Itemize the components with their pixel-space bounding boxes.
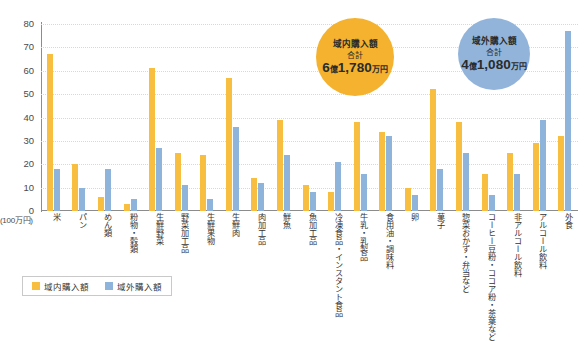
bar-group bbox=[558, 24, 572, 211]
bar-inner[interactable] bbox=[72, 164, 78, 211]
bar-group bbox=[303, 24, 317, 211]
bar-outer[interactable] bbox=[207, 199, 213, 211]
bar-inner[interactable] bbox=[456, 122, 462, 211]
bar-outer[interactable] bbox=[514, 174, 520, 211]
callout-inner-title: 域内購入額 bbox=[333, 39, 378, 50]
callout-inner-amount: 6億1,780万円 bbox=[322, 61, 387, 76]
y-axis-unit-label: (100万円) bbox=[0, 214, 42, 225]
bar-outer[interactable] bbox=[335, 162, 341, 211]
x-tick-label: めん類 bbox=[98, 213, 111, 237]
y-tick-label-70: 70 bbox=[0, 42, 34, 52]
callout-outer-oku-unit: 億 bbox=[469, 62, 477, 71]
chart-legend: 域内購入額 域外購入額 bbox=[22, 276, 172, 296]
bar-inner[interactable] bbox=[354, 122, 360, 211]
x-tick-label: 食用油・調味料 bbox=[380, 213, 393, 269]
x-tick-label: 野菜加工品 bbox=[175, 213, 188, 253]
x-tick-label: アルコール飲料 bbox=[533, 213, 546, 269]
bar-group bbox=[430, 24, 444, 211]
x-axis-tick-labels: 米パンめん類粉物・穀類生鮮野菜野菜加工品生鮮果物生鮮肉肉加工品鮮魚魚加工品冷凍食… bbox=[41, 213, 578, 275]
callout-bubble-inner-total: 域内購入額 合計 6億1,780万円 bbox=[316, 18, 394, 96]
bar-inner[interactable] bbox=[328, 192, 334, 211]
x-tick-label: 外食 bbox=[559, 213, 572, 229]
bar-group bbox=[533, 24, 547, 211]
bar-outer[interactable] bbox=[463, 153, 469, 211]
bar-group bbox=[200, 24, 214, 211]
bar-inner[interactable] bbox=[507, 153, 513, 211]
x-tick-label: 生鮮果物 bbox=[201, 213, 214, 245]
legend-label-outer: 域外購入額 bbox=[117, 280, 162, 292]
bar-outer[interactable] bbox=[233, 127, 239, 211]
x-tick-label: 惣菜おかず・弁当など bbox=[456, 213, 469, 293]
bar-inner[interactable] bbox=[558, 136, 564, 211]
y-tick-label-30: 30 bbox=[0, 136, 34, 146]
bar-inner[interactable] bbox=[251, 178, 257, 211]
x-tick-label: 牛乳・乳製品 bbox=[354, 213, 367, 261]
bar-group bbox=[226, 24, 240, 211]
bar-inner[interactable] bbox=[379, 132, 385, 211]
x-tick-label: 冷凍食品・インスタント食品 bbox=[329, 213, 342, 317]
bar-group bbox=[124, 24, 138, 211]
x-tick-label: 肉加工品 bbox=[252, 213, 265, 245]
x-tick-label: 生鮮野菜 bbox=[150, 213, 163, 245]
x-tick-label: 生鮮肉 bbox=[226, 213, 239, 237]
callout-inner-man-unit: 万円 bbox=[372, 65, 388, 74]
x-tick-label: パン bbox=[73, 213, 86, 229]
bar-outer[interactable] bbox=[258, 183, 264, 211]
y-tick-label-80: 80 bbox=[0, 19, 34, 29]
x-tick-label: 魚加工品 bbox=[303, 213, 316, 245]
y-axis-tick-labels: 01020304050607080 bbox=[0, 0, 38, 212]
bar-group bbox=[277, 24, 291, 211]
x-tick-label: 菓子 bbox=[431, 213, 444, 229]
bar-outer[interactable] bbox=[540, 120, 546, 211]
bar-outer[interactable] bbox=[489, 195, 495, 211]
bar-outer[interactable] bbox=[54, 169, 60, 211]
bar-inner[interactable] bbox=[405, 188, 411, 211]
x-tick-label: コーヒー豆粉・ココア粉・茶葉など bbox=[482, 213, 495, 341]
bar-outer[interactable] bbox=[284, 155, 290, 211]
bar-group bbox=[98, 24, 112, 211]
bar-inner[interactable] bbox=[98, 197, 104, 211]
bar-outer[interactable] bbox=[156, 148, 162, 211]
bar-inner[interactable] bbox=[124, 204, 130, 211]
y-tick-label-20: 20 bbox=[0, 159, 34, 169]
bar-inner[interactable] bbox=[533, 143, 539, 211]
legend-swatch-outer bbox=[105, 282, 113, 290]
callout-outer-oku-value: 4 bbox=[461, 57, 469, 72]
x-tick-label: 米 bbox=[47, 213, 60, 221]
bar-outer[interactable] bbox=[310, 192, 316, 211]
bar-inner[interactable] bbox=[175, 153, 181, 211]
y-tick-label-50: 50 bbox=[0, 89, 34, 99]
bar-outer[interactable] bbox=[565, 31, 571, 211]
bar-inner[interactable] bbox=[303, 185, 309, 211]
gridline-0 bbox=[41, 211, 578, 212]
callout-bubble-outer-total: 域外購入額 合計 4億1,080万円 bbox=[458, 18, 530, 90]
x-tick-label: 鮮魚 bbox=[277, 213, 290, 229]
bar-inner[interactable] bbox=[149, 68, 155, 211]
bar-outer[interactable] bbox=[79, 188, 85, 211]
bar-outer[interactable] bbox=[437, 169, 443, 211]
bar-outer[interactable] bbox=[386, 136, 392, 211]
callout-outer-man-value: 1,080 bbox=[477, 57, 511, 72]
bar-inner[interactable] bbox=[47, 54, 53, 211]
bar-outer[interactable] bbox=[105, 169, 111, 211]
bar-group bbox=[149, 24, 163, 211]
callout-inner-oku-unit: 億 bbox=[330, 65, 338, 74]
bar-inner[interactable] bbox=[430, 89, 436, 211]
legend-label-inner: 域内購入額 bbox=[44, 280, 89, 292]
legend-item-outer[interactable]: 域外購入額 bbox=[105, 280, 162, 292]
bar-inner[interactable] bbox=[482, 174, 488, 211]
callout-outer-title: 域外購入額 bbox=[472, 36, 517, 47]
legend-item-inner[interactable]: 域内購入額 bbox=[32, 280, 89, 292]
y-tick-label-40: 40 bbox=[0, 113, 34, 123]
bar-outer[interactable] bbox=[182, 185, 188, 211]
bar-outer[interactable] bbox=[412, 195, 418, 211]
callout-outer-man-unit: 万円 bbox=[511, 62, 527, 71]
bar-outer[interactable] bbox=[131, 199, 137, 211]
bar-group bbox=[175, 24, 189, 211]
bar-inner[interactable] bbox=[200, 155, 206, 211]
y-tick-label-10: 10 bbox=[0, 183, 34, 193]
bar-outer[interactable] bbox=[361, 174, 367, 211]
bar-inner[interactable] bbox=[277, 120, 283, 211]
bar-inner[interactable] bbox=[226, 78, 232, 211]
